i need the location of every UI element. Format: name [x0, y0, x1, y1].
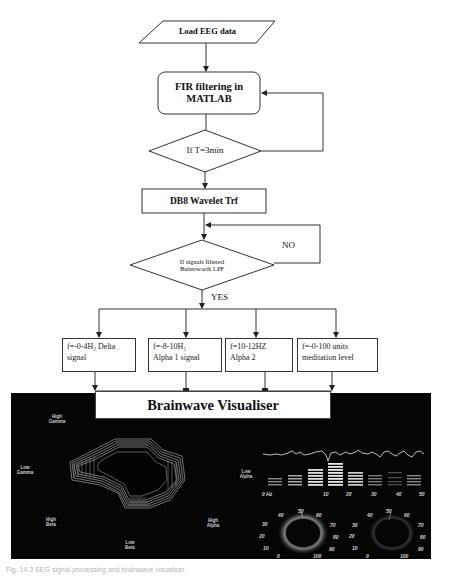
spectrum-tick: 30 — [371, 491, 377, 497]
gauge2-tick: 60 — [404, 512, 410, 518]
spectrum-label-low-alpha: LowAlpha — [232, 469, 260, 479]
spectrum-bars — [268, 463, 421, 486]
figure-caption: Fig. 14.3 EEG signal processing and brai… — [6, 566, 185, 573]
gauge2-tick: 30 — [352, 522, 358, 528]
spectrum-tick: 0 Hz — [262, 491, 272, 497]
spectrum-tick: 40 — [396, 491, 402, 497]
gauge1-tick: 80 — [333, 534, 339, 540]
gauge2-tick: 100 — [400, 553, 408, 559]
gauge2-tick: 90 — [418, 546, 424, 552]
gauge1-tick: 50 — [298, 508, 304, 514]
ring-label-low-gamma: LowGamma — [10, 465, 40, 475]
ring-label-high-beta: HighBeta — [36, 517, 66, 527]
gauge2-tick: 10 — [352, 545, 358, 551]
spectrum-tick: 20 — [346, 491, 352, 497]
gauge1-tick: 30 — [262, 521, 268, 527]
gauge1-tick: 100 — [313, 553, 321, 559]
brainwave-visualiser-title: Brainwave Visualiser — [95, 391, 331, 419]
ring-label-high-gamma: HighGamma — [42, 414, 72, 424]
gauge1-tick: 90 — [329, 546, 335, 552]
gauge2-tick: 70 — [418, 522, 424, 528]
spectrum-tick: 10 — [323, 491, 329, 497]
eeg-waveform — [263, 450, 424, 461]
ring-label-high-alpha: HighAlpha — [198, 518, 228, 528]
gauge2-tick: 50 — [386, 508, 392, 514]
gauge1-tick: 10 — [263, 545, 269, 551]
gauge2-tick: 20 — [349, 533, 355, 539]
ring-label-low-beta: LowBeta — [115, 540, 145, 550]
gauge2-tick: 40 — [367, 512, 373, 518]
spectrum-tick: 50 — [419, 491, 425, 497]
gauge1-tick: 70 — [330, 522, 336, 528]
gauge1-tick: 0 — [277, 553, 280, 559]
visualiser-graphics — [0, 0, 449, 578]
gauge2-tick: 0 — [366, 553, 369, 559]
gauge1-tick: 20 — [259, 533, 265, 539]
gauge2-tick: 80 — [420, 534, 426, 540]
gauge1-tick: 60 — [316, 512, 322, 518]
gauge-2 — [368, 512, 416, 553]
gauge1-tick: 40 — [278, 512, 284, 518]
